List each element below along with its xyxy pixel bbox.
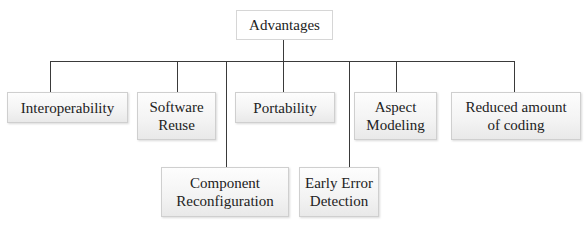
node-portability: Portability xyxy=(235,92,335,123)
node-component-reconfiguration: Component Reconfiguration xyxy=(161,167,289,217)
connector-reduced-coding xyxy=(514,61,515,92)
node-reduced-amount-of-coding: Reduced amount of coding xyxy=(451,92,581,140)
node-label: Software Reuse xyxy=(149,98,203,134)
node-software-reuse: Software Reuse xyxy=(137,92,216,140)
node-label: Aspect Modeling xyxy=(366,98,424,134)
root-connector xyxy=(283,40,284,61)
node-label: Reduced amount of coding xyxy=(465,98,566,134)
node-label: Portability xyxy=(253,99,316,117)
root-node-advantages: Advantages xyxy=(236,10,333,40)
node-label: Interoperability xyxy=(21,99,114,117)
connector-component-reconfiguration xyxy=(226,61,227,167)
node-early-error-detection: Early Error Detection xyxy=(299,167,379,217)
node-aspect-modeling: Aspect Modeling xyxy=(354,92,437,140)
connector-portability xyxy=(283,61,284,92)
advantages-tree-diagram: Advantages Interoperability Software Reu… xyxy=(0,0,587,225)
node-label: Component Reconfiguration xyxy=(176,174,273,210)
connector-aspect-modeling xyxy=(396,61,397,92)
connector-interoperability xyxy=(50,61,51,92)
node-interoperability: Interoperability xyxy=(7,92,128,123)
node-label: Early Error Detection xyxy=(305,174,373,210)
root-label: Advantages xyxy=(249,16,320,34)
connector-early-error-detection xyxy=(349,61,350,167)
connector-software-reuse xyxy=(177,61,178,92)
